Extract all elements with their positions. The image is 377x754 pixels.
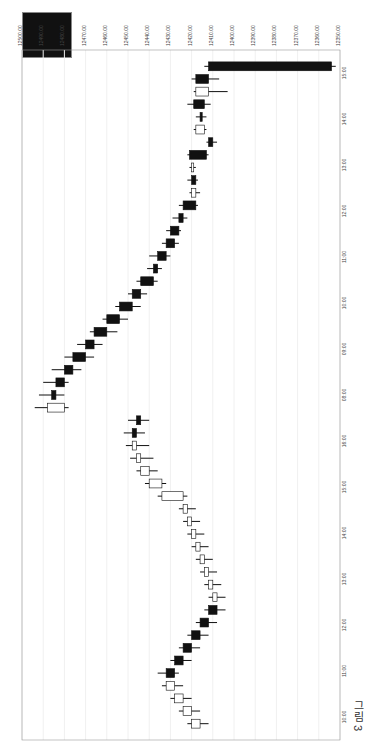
svg-text:14:00: 14:00 xyxy=(341,113,347,126)
svg-text:12500.00: 12500.00 xyxy=(17,25,23,46)
svg-text:12490.00: 12490.00 xyxy=(38,25,44,46)
svg-text:12470.00: 12470.00 xyxy=(81,25,87,46)
svg-text:12410.00: 12410.00 xyxy=(208,25,214,46)
svg-text:12:00: 12:00 xyxy=(341,205,347,218)
svg-text:12420.00: 12420.00 xyxy=(187,25,193,46)
svg-text:11:00: 11:00 xyxy=(341,665,347,677)
svg-text:15:00: 15:00 xyxy=(341,67,347,80)
svg-text:16:00: 16:00 xyxy=(341,435,347,448)
svg-text:12380.00: 12380.00 xyxy=(271,25,277,46)
svg-text:08:00: 08:00 xyxy=(341,389,347,402)
svg-text:12400.00: 12400.00 xyxy=(229,25,235,46)
svg-text:12450.00: 12450.00 xyxy=(123,25,129,46)
svg-text:13:00: 13:00 xyxy=(341,573,347,586)
svg-text:13:00: 13:00 xyxy=(341,159,347,172)
svg-text:12350.00: 12350.00 xyxy=(335,25,341,46)
candlestick-chart: 12500.0012490.0012480.0012470.0012460.00… xyxy=(0,0,377,754)
svg-text:14:00: 14:00 xyxy=(341,527,347,540)
svg-text:15:00: 15:00 xyxy=(341,481,347,494)
svg-text:12460.00: 12460.00 xyxy=(102,25,108,46)
svg-text:10:00: 10:00 xyxy=(341,297,347,310)
svg-text:12430.00: 12430.00 xyxy=(165,25,171,46)
svg-text:12390.00: 12390.00 xyxy=(250,25,256,46)
svg-text:12360.00: 12360.00 xyxy=(314,25,320,46)
svg-text:12480.00: 12480.00 xyxy=(59,25,65,46)
svg-text:10:00: 10:00 xyxy=(341,711,347,724)
svg-text:12440.00: 12440.00 xyxy=(144,25,150,46)
svg-text:12370.00: 12370.00 xyxy=(293,25,299,46)
figure-caption: 그림 3 xyxy=(350,700,366,731)
svg-text:12:00: 12:00 xyxy=(341,619,347,632)
svg-text:09:00: 09:00 xyxy=(341,343,347,356)
svg-text:11:00: 11:00 xyxy=(341,251,347,263)
